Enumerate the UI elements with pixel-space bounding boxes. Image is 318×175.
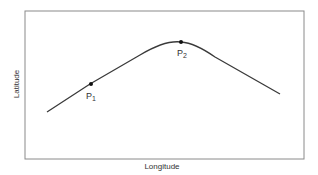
y-axis-label: Latitude [12, 69, 21, 98]
point-p1-label: P1 [86, 91, 96, 102]
point-p2-label: P2 [177, 48, 187, 59]
point-p2-marker [179, 40, 183, 44]
route-diagram: P1 P2 Longitude Latitude [0, 0, 318, 175]
x-axis-label: Longitude [144, 162, 180, 171]
plot-frame [25, 11, 304, 159]
route-curve [47, 42, 280, 112]
diagram-canvas: P1 P2 Longitude Latitude [0, 0, 318, 175]
point-p1-marker [89, 82, 93, 86]
